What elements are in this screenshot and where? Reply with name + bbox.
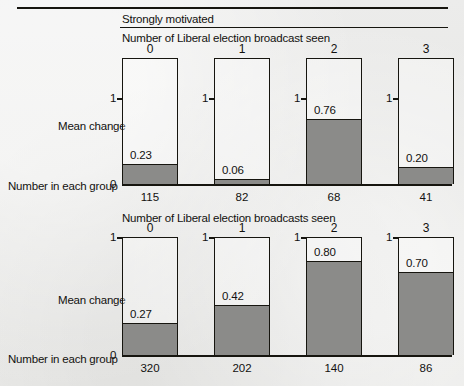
bar-value-label: 0.06 — [222, 165, 244, 177]
bottom-chart-axis-label: Mean change — [58, 295, 126, 307]
bar-value-label: 0.76 — [314, 105, 336, 117]
header-rule-sub — [120, 27, 448, 28]
bar-value-label: 0.42 — [222, 291, 244, 303]
bar — [215, 179, 269, 184]
bar-value-label: 0.23 — [130, 150, 152, 162]
bottom-chart-baseline — [122, 355, 452, 357]
bar — [123, 323, 177, 355]
ytick-1: 1 — [386, 93, 392, 105]
category-label: 0 — [122, 222, 178, 234]
bar — [123, 164, 177, 184]
bar — [399, 272, 453, 355]
group-size-label: 68 — [306, 192, 362, 204]
ytick-1-mark — [301, 237, 306, 239]
top-chart-group-row-label: Number in each group — [8, 181, 118, 193]
bottom-chart-group-row-label: Number in each group — [8, 354, 118, 366]
ytick-1: 1 — [294, 93, 300, 105]
group-size-label: 82 — [214, 192, 270, 204]
group-size-label: 86 — [398, 363, 454, 375]
bar — [307, 119, 361, 184]
ytick-1-mark — [209, 237, 214, 239]
bar-value-label: 0.70 — [406, 258, 428, 270]
ytick-1: 1 — [294, 232, 300, 244]
header-rule-top — [17, 7, 448, 9]
bar-value-label: 0.20 — [406, 153, 428, 165]
bar — [215, 305, 269, 355]
category-label: 0 — [122, 43, 178, 55]
ytick-1-mark — [393, 98, 398, 100]
category-label: 1 — [214, 43, 270, 55]
panel-label-strongly-motivated: Strongly motivated — [122, 14, 214, 26]
category-label: 3 — [398, 222, 454, 234]
top-chart: Mean change Number in each group 0 010.2… — [0, 45, 464, 195]
ytick-1-mark — [117, 98, 122, 100]
category-label: 3 — [398, 43, 454, 55]
group-size-label: 140 — [306, 363, 362, 375]
group-size-label: 115 — [122, 192, 178, 204]
category-label: 1 — [214, 222, 270, 234]
ytick-1: 1 — [202, 232, 208, 244]
top-chart-baseline — [122, 184, 452, 186]
group-size-label: 41 — [398, 192, 454, 204]
ytick-1-mark — [117, 237, 122, 239]
top-chart-ytick-0: 0 — [110, 179, 116, 191]
bar-value-label: 0.80 — [314, 247, 336, 259]
category-label: 2 — [306, 43, 362, 55]
ytick-1: 1 — [202, 93, 208, 105]
bottom-chart: Mean change Number in each group 0 010.2… — [0, 225, 464, 365]
category-label: 2 — [306, 222, 362, 234]
ytick-1-mark — [209, 98, 214, 100]
ytick-1-mark — [393, 237, 398, 239]
group-size-label: 320 — [122, 363, 178, 375]
ytick-1: 1 — [110, 93, 116, 105]
bar — [399, 167, 453, 184]
figure-page: Strongly motivated Number of Liberal ele… — [0, 0, 464, 386]
bar-frame — [398, 58, 454, 184]
ytick-1: 1 — [386, 232, 392, 244]
group-size-label: 202 — [214, 363, 270, 375]
bottom-chart-ytick-0: 0 — [110, 350, 116, 362]
bar — [307, 261, 361, 355]
top-chart-axis-label: Mean change — [58, 121, 126, 133]
ytick-1: 1 — [110, 232, 116, 244]
ytick-1-mark — [301, 98, 306, 100]
bar-value-label: 0.27 — [130, 309, 152, 321]
